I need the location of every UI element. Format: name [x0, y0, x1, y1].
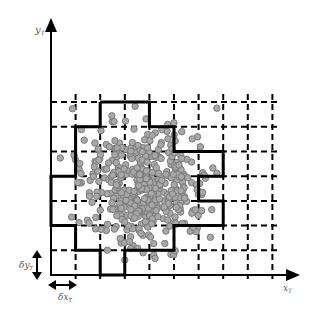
down-arrow-icon: [32, 272, 42, 280]
up-arrow-icon: [32, 250, 42, 258]
dx-cell-width-indicator: δxT: [48, 280, 77, 303]
x-axis-label: xT: [283, 283, 293, 294]
dx-label: δxT: [58, 292, 73, 303]
grid-occupancy-diagram: yT xT δyT δxT: [0, 0, 314, 313]
right-arrow-icon: [69, 280, 77, 290]
dy-label: δyT: [19, 260, 34, 271]
x-axis-arrow-icon: [286, 269, 300, 281]
dy-cell-height-indicator: δyT: [19, 250, 42, 280]
y-axis-arrow-icon: [45, 18, 57, 32]
y-axis-label: yT: [34, 24, 46, 36]
left-arrow-icon: [48, 280, 56, 290]
